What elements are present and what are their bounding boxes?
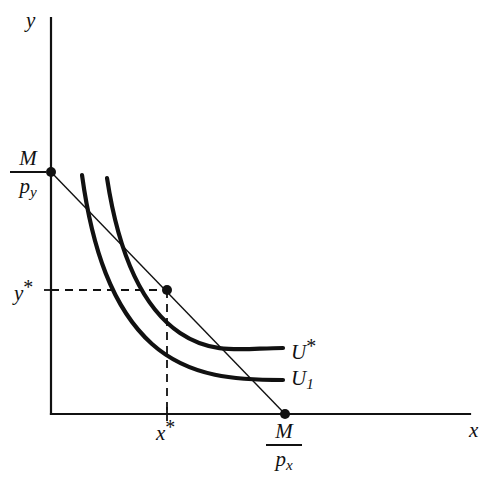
x-intercept-fraction-bar	[266, 444, 302, 446]
y-intercept-label: M py	[10, 148, 46, 200]
curve-label-u-one: U1	[291, 368, 314, 392]
y-intercept-numerator: M	[10, 148, 46, 170]
indifference-curve-diagram: y x M py M px y* x* U* U1	[0, 0, 492, 477]
y-intercept-fraction-bar	[10, 171, 46, 173]
x-intercept-label: M px	[266, 421, 302, 473]
optimum-point-dot	[162, 285, 172, 295]
curve-label-u-star: U*	[291, 337, 316, 363]
y-intercept-dot	[46, 167, 56, 177]
x-intercept-denominator: px	[266, 448, 302, 473]
y-intercept-denominator: py	[10, 175, 46, 200]
y-axis-label: y	[26, 10, 35, 31]
x-intercept-dot	[280, 409, 290, 419]
x-star-label: x*	[156, 418, 175, 444]
x-intercept-numerator: M	[266, 421, 302, 443]
y-star-label: y*	[14, 278, 33, 304]
diagram-canvas	[0, 0, 492, 477]
x-axis-label: x	[469, 420, 478, 441]
